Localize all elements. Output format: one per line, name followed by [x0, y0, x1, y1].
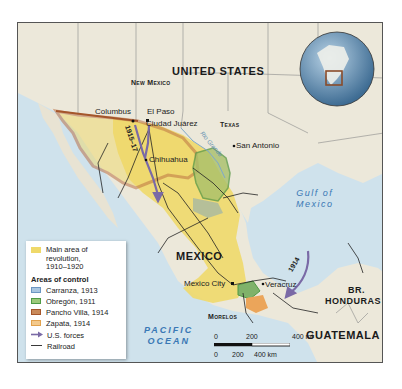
scale-bar: 0 200 400 mi 0 200 400 km — [214, 333, 334, 363]
legend-item-zapata: Zapata, 1914 — [31, 319, 121, 328]
globe-icon — [299, 31, 375, 107]
label-mexico: MEXICO — [176, 251, 222, 262]
legend-label-obregon: Obregón, 1911 — [46, 297, 95, 306]
map-frame: UNITED STATES MEXICO GUATEMALA BR. HONDU… — [17, 22, 383, 363]
scale-km-200: 200 — [232, 351, 244, 358]
label-columbus: Columbus — [95, 108, 131, 116]
label-pacific-ocean: PACIFIC OCEAN — [144, 325, 193, 347]
scale-mi-0: 0 — [214, 333, 218, 340]
label-mexico-city: Mexico City — [184, 280, 225, 288]
label-new-mexico: New Mexico — [131, 79, 170, 86]
label-chihuahua: Chihuahua — [149, 156, 188, 164]
legend-item-us-forces: U.S. forces — [31, 331, 121, 340]
scale-mi-200: 200 — [246, 333, 258, 340]
legend-label-us-forces: U.S. forces — [47, 331, 84, 340]
legend-main-line-3: 1910–1920 — [46, 263, 88, 272]
label-morelos: Morelos — [208, 313, 237, 320]
pacific-line-1: PACIFIC — [144, 325, 193, 336]
scale-bar-graphic — [214, 343, 290, 349]
label-ciudad-juarez: Ciudad Juárez — [146, 120, 198, 128]
swatch-obregon — [31, 298, 41, 304]
label-texas: Texas — [220, 121, 239, 128]
legend-label-villa: Pancho Villa, 1914 — [46, 308, 108, 317]
label-br-honduras-2: HONDURAS — [325, 297, 381, 306]
legend-item-railroad: Railroad — [31, 342, 121, 351]
locator-globe — [299, 31, 375, 107]
scale-km-0: 0 — [214, 351, 218, 358]
scale-km-400: 400 km — [254, 351, 277, 358]
legend-areas-header: Areas of control — [31, 275, 121, 284]
label-gulf-of-mexico: Gulf of Mexico — [296, 188, 334, 210]
swatch-main-area — [31, 247, 41, 253]
label-san-antonio: San Antonio — [236, 142, 279, 150]
label-united-states: UNITED STATES — [172, 66, 264, 77]
legend-main-area: Main area of revolution, 1910–1920 — [31, 246, 121, 272]
legend-item-obregon: Obregón, 1911 — [31, 297, 121, 306]
scale-mi-400: 400 mi — [292, 333, 313, 340]
legend-item-villa: Pancho Villa, 1914 — [31, 308, 121, 317]
legend-label-zapata: Zapata, 1914 — [46, 319, 90, 328]
map-legend: Main area of revolution, 1910–1920 Areas… — [26, 241, 126, 359]
swatch-villa — [31, 309, 41, 315]
gulf-line-1: Gulf of — [296, 188, 334, 199]
swatch-carranza — [31, 287, 41, 293]
label-el-paso: El Paso — [147, 108, 175, 116]
legend-label-carranza: Carranza, 1913 — [46, 286, 98, 295]
railroad-line-icon — [31, 342, 43, 349]
label-br-honduras-1: BR. — [348, 286, 365, 295]
label-veracruz: Veracruz — [265, 281, 297, 289]
gulf-line-2: Mexico — [296, 199, 334, 210]
legend-item-carranza: Carranza, 1913 — [31, 286, 121, 295]
swatch-zapata — [31, 320, 41, 326]
legend-label-railroad: Railroad — [47, 342, 75, 351]
pacific-line-2: OCEAN — [144, 336, 193, 347]
arrow-right-icon — [31, 331, 43, 338]
